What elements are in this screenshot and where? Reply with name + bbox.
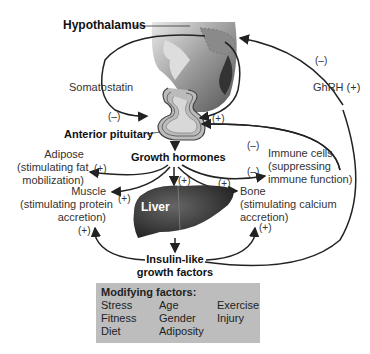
factor-age: Age <box>159 299 179 311</box>
immune-bottom-sign: (–) <box>247 166 259 177</box>
adipose-label: Adipose (stimulating fat mobilization) <box>17 148 84 187</box>
factor-diet: Diet <box>101 325 121 337</box>
somatostatin-label: Somatostatin <box>69 81 133 94</box>
bone-label: Bone (stimulating calcium accretion) <box>240 185 337 224</box>
factor-injury: Injury <box>217 312 244 324</box>
pituitary-plus-sign: (+) <box>212 113 225 124</box>
growth-hormones-label: Growth hormones <box>131 151 226 164</box>
hypothalamus-label: Hypothalamus <box>63 19 146 32</box>
igf-label: Insulin-like growth factors <box>135 253 215 279</box>
muscle-sign: (+) <box>118 193 131 204</box>
muscle-label: Muscle (stimulating protein accretion) <box>20 185 106 224</box>
bone-igf-sign: (+) <box>259 222 272 233</box>
liver-label: Liver <box>141 201 170 214</box>
adipose-sign: (+) <box>94 163 107 174</box>
immune-top-sign: (–) <box>247 140 259 151</box>
somatostatin-sign: (–) <box>108 111 120 122</box>
bone-sign: (+) <box>218 178 231 189</box>
modifying-factors-box: Modifying factors: Stress Fitness Diet A… <box>96 283 260 343</box>
ghrh-feedback-sign: (–) <box>315 55 327 66</box>
factor-fitness: Fitness <box>101 312 136 324</box>
factor-stress: Stress <box>101 299 132 311</box>
factor-adiposity: Adiposity <box>159 325 204 337</box>
liver-sign: (+) <box>178 175 191 186</box>
anterior-pituitary-label: Anterior pituitary <box>64 128 153 141</box>
muscle-igf-sign: (+) <box>78 225 91 236</box>
factor-exercise: Exercise <box>217 299 259 311</box>
immune-label: Immune cells (suppressing immune functio… <box>268 147 352 186</box>
modifying-factors-title: Modifying factors: <box>101 286 196 298</box>
ghrh-label: GhRH (+) <box>313 81 360 94</box>
factor-gender: Gender <box>159 312 196 324</box>
igf-feedback-hypothalamus-arrow <box>240 38 343 105</box>
